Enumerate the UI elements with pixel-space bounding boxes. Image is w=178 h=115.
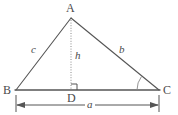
- dimension-arrow-left-icon: [16, 102, 25, 108]
- geometry-figure: A B C D c b h a: [0, 0, 178, 115]
- side-c-line: [16, 18, 71, 90]
- vertex-label-d: D: [67, 92, 76, 104]
- altitude-label-h: h: [75, 50, 81, 61]
- side-label-b: b: [119, 44, 125, 55]
- vertex-label-a: A: [66, 2, 75, 14]
- angle-arc-c-icon: [137, 77, 142, 91]
- dimension-label-a: a: [85, 99, 95, 110]
- right-angle-marker-icon: [71, 84, 77, 90]
- side-b-line: [71, 18, 159, 90]
- vertex-label-b: B: [3, 84, 11, 96]
- side-label-c: c: [31, 44, 36, 55]
- dimension-arrow-right-icon: [150, 102, 159, 108]
- vertex-label-c: C: [163, 84, 171, 96]
